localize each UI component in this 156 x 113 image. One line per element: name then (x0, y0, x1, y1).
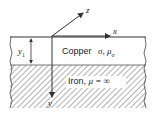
copper-name: Copper (62, 46, 92, 56)
copper-label: Copper σ, μo (62, 47, 115, 58)
iron-name: Iron, (68, 76, 86, 86)
iron-property: μ = ∞ (89, 76, 111, 86)
y1-label: y1 (18, 47, 25, 58)
iron-label: Iron, μ = ∞ (68, 77, 110, 86)
z-axis-arrow (52, 13, 83, 36)
x-axis-label: x (113, 27, 117, 36)
y1-label-subscript: 1 (22, 52, 25, 58)
z-axis-label: z (86, 6, 90, 15)
copper-properties: σ, μ (98, 46, 111, 56)
copper-mu-subscript: o (112, 52, 115, 58)
y-axis-label: y (48, 99, 52, 108)
